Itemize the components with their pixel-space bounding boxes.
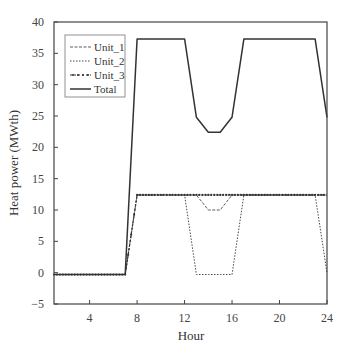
y-axis-label: Heat power (MWth) xyxy=(6,110,21,216)
star-marker xyxy=(287,194,289,196)
series-unit-3 xyxy=(54,195,327,275)
y-tick-label: 15 xyxy=(32,172,44,186)
star-marker xyxy=(219,194,221,196)
star-marker xyxy=(323,194,325,196)
star-marker xyxy=(299,194,301,196)
legend-label: Unit_2 xyxy=(94,55,125,67)
star-marker xyxy=(154,194,156,196)
star-marker xyxy=(151,194,153,196)
star-marker xyxy=(130,234,132,236)
star-marker xyxy=(82,74,84,76)
star-marker xyxy=(275,194,277,196)
y-tick-label: 30 xyxy=(32,78,44,92)
star-marker xyxy=(281,194,283,196)
star-marker xyxy=(290,194,292,196)
x-tick-label: 4 xyxy=(87,311,93,325)
star-marker xyxy=(178,194,180,196)
y-tick-label: −5 xyxy=(31,297,44,311)
star-marker xyxy=(296,194,298,196)
star-marker xyxy=(192,194,194,196)
star-marker xyxy=(186,194,188,196)
star-marker xyxy=(278,194,280,196)
star-marker xyxy=(237,194,239,196)
star-marker xyxy=(311,194,313,196)
y-tick-label: 25 xyxy=(32,109,44,123)
star-marker xyxy=(231,194,233,196)
star-marker xyxy=(320,194,322,196)
star-marker xyxy=(175,194,177,196)
star-marker xyxy=(243,194,245,196)
star-marker xyxy=(207,194,209,196)
star-marker xyxy=(142,194,144,196)
star-marker xyxy=(222,194,224,196)
x-tick-label: 16 xyxy=(226,311,238,325)
x-tick-label: 12 xyxy=(179,311,191,325)
star-marker xyxy=(180,194,182,196)
star-marker xyxy=(216,194,218,196)
series-unit-2 xyxy=(54,195,327,275)
legend-label: Unit_3 xyxy=(94,69,125,81)
star-marker xyxy=(183,194,185,196)
star-marker xyxy=(261,194,263,196)
star-marker xyxy=(293,194,295,196)
star-marker xyxy=(133,214,135,216)
star-marker xyxy=(157,194,159,196)
star-marker xyxy=(145,194,147,196)
star-marker xyxy=(204,194,206,196)
x-tick-label: 24 xyxy=(321,311,333,325)
legend: Unit_1Unit_2Unit_3Total xyxy=(65,35,125,97)
star-marker xyxy=(213,194,215,196)
star-marker xyxy=(225,194,227,196)
y-tick-label: 10 xyxy=(32,203,44,217)
x-tick-label: 8 xyxy=(134,311,140,325)
star-marker xyxy=(201,194,203,196)
star-marker xyxy=(317,194,319,196)
legend-label: Total xyxy=(94,83,116,95)
y-tick-label: 20 xyxy=(32,140,44,154)
x-axis-label: Hour xyxy=(178,328,205,343)
star-marker xyxy=(284,194,286,196)
star-marker xyxy=(172,194,174,196)
y-tick-label: 5 xyxy=(38,234,44,248)
x-tick-label: 20 xyxy=(274,311,286,325)
line-chart: 4812162024−50510152025303540 Hour Heat p… xyxy=(0,0,350,355)
star-marker xyxy=(87,74,89,76)
star-marker xyxy=(77,74,79,76)
star-marker xyxy=(252,194,254,196)
star-marker xyxy=(169,194,171,196)
star-marker xyxy=(272,194,274,196)
star-marker xyxy=(72,74,74,76)
legend-label: Unit_1 xyxy=(94,41,125,53)
star-marker xyxy=(166,194,168,196)
star-marker xyxy=(160,194,162,196)
star-marker xyxy=(228,194,230,196)
star-marker xyxy=(308,194,310,196)
star-marker xyxy=(195,194,197,196)
star-marker xyxy=(305,194,307,196)
star-marker xyxy=(210,194,212,196)
star-marker xyxy=(249,194,251,196)
star-marker xyxy=(255,194,257,196)
star-marker xyxy=(139,194,141,196)
star-marker xyxy=(234,194,236,196)
star-marker xyxy=(264,194,266,196)
star-marker xyxy=(302,194,304,196)
star-marker xyxy=(148,194,150,196)
star-marker xyxy=(189,194,191,196)
y-tick-label: 0 xyxy=(38,266,44,280)
star-marker xyxy=(314,194,316,196)
star-marker xyxy=(246,194,248,196)
y-tick-label: 40 xyxy=(32,15,44,29)
star-marker xyxy=(198,194,200,196)
star-marker xyxy=(136,194,138,196)
star-marker xyxy=(127,254,129,256)
star-marker xyxy=(240,194,242,196)
y-tick-label: 35 xyxy=(32,46,44,60)
star-marker xyxy=(270,194,272,196)
star-marker xyxy=(163,194,165,196)
star-marker xyxy=(267,194,269,196)
star-marker xyxy=(258,194,260,196)
series-unit-1 xyxy=(54,195,327,275)
